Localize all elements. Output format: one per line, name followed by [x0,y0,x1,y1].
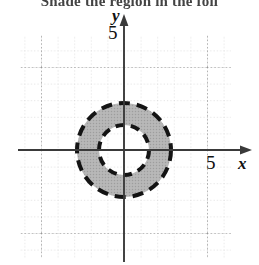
y-axis-tick-label-5: 5 [108,22,118,44]
figure-root: Shade the region in the foll [0,0,259,265]
coordinate-plane-svg [0,0,259,265]
x-axis-tick-label-5: 5 [206,152,216,174]
shaded-annulus-region [70,96,180,206]
x-axis-label: x [238,154,247,174]
y-axis-arrowhead [120,14,129,26]
